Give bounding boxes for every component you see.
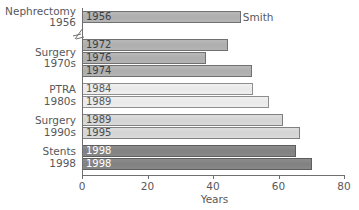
bar-value-label: 1956: [86, 12, 111, 22]
x-axis-title-text: Years: [201, 193, 229, 205]
bar[interactable]: 1984: [82, 83, 253, 95]
x-axis-tick-label: 20: [128, 180, 168, 192]
x-axis-tick: [148, 175, 149, 179]
x-axis-tick-label: 0: [62, 180, 102, 192]
bar[interactable]: 1972: [82, 39, 228, 51]
category-label-line2: 1956: [0, 17, 76, 29]
x-axis-tick-label: 40: [193, 180, 233, 192]
bar[interactable]: 1989: [82, 114, 283, 126]
bar-value-label: 1998: [86, 146, 111, 156]
bar[interactable]: 1998: [82, 158, 312, 170]
bar[interactable]: 1995: [82, 127, 300, 139]
x-axis-tick: [279, 175, 280, 179]
plot-area: Nephrectomy1956Surgery1970sPTRA1980sSurg…: [0, 0, 359, 210]
bar-value-label: 1989: [86, 97, 111, 107]
bar[interactable]: 1989: [82, 96, 269, 108]
category-label-line1: PTRA: [0, 84, 76, 96]
category-label-line2: 1970s: [0, 58, 76, 70]
x-axis-tick-label: 80: [324, 180, 359, 192]
bar-value-label: 1972: [86, 40, 111, 50]
bar-value-label: 1984: [86, 84, 111, 94]
category-label: Nephrectomy1956: [0, 6, 76, 29]
category-label-line2: 1998: [0, 158, 76, 170]
bar[interactable]: 1956: [82, 11, 241, 23]
x-axis-tick: [213, 175, 214, 179]
bar[interactable]: 1998: [82, 145, 296, 157]
category-label-line1: Surgery: [0, 115, 76, 127]
category-label-line1: Stents: [0, 146, 76, 158]
bar-chart: Nephrectomy1956Surgery1970sPTRA1980sSurg…: [0, 0, 359, 210]
bar[interactable]: 1976: [82, 52, 206, 64]
category-label-line2: 1990s: [0, 127, 76, 139]
bar-annotation: Smith: [243, 11, 274, 23]
category-label: Stents1998: [0, 146, 76, 169]
category-label: Surgery1990s: [0, 115, 76, 138]
category-label-line2: 1980s: [0, 96, 76, 108]
bar[interactable]: 1974: [82, 65, 252, 77]
bar-value-label: 1974: [86, 66, 111, 76]
bar-value-label: 1989: [86, 115, 111, 125]
bar-value-label: 1998: [86, 159, 111, 169]
category-label: Surgery1970s: [0, 47, 76, 70]
x-axis-title: Years: [0, 193, 359, 205]
bar-value-label: 1976: [86, 53, 111, 63]
category-label: PTRA1980s: [0, 84, 76, 107]
x-axis-tick: [344, 175, 345, 179]
axis-break-icon: [72, 26, 86, 42]
x-axis-tick-label: 60: [259, 180, 299, 192]
x-axis-tick: [82, 175, 83, 179]
bar-value-label: 1995: [86, 128, 111, 138]
